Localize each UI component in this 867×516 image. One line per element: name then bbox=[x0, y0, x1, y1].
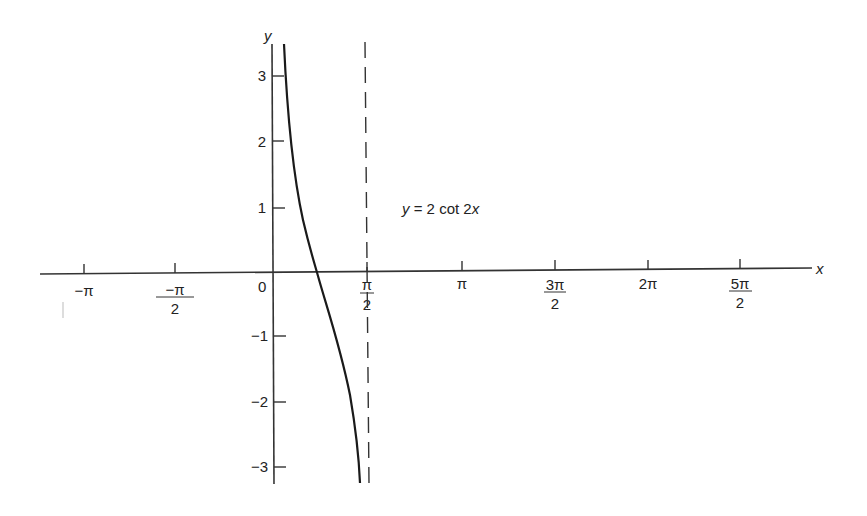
x-tick-label-den: 2 bbox=[551, 295, 559, 312]
origin-label: 0 bbox=[258, 278, 266, 295]
x-tick-label-num: 5π bbox=[731, 275, 750, 292]
svg-text:3: 3 bbox=[258, 67, 266, 84]
svg-text:−1: −1 bbox=[251, 327, 268, 344]
svg-text:−2: −2 bbox=[251, 393, 268, 410]
svg-text:1: 1 bbox=[258, 199, 266, 216]
y-tick-labels: 3 2 1 −1 −2 −3 bbox=[251, 67, 268, 475]
svg-text:−3: −3 bbox=[251, 458, 268, 475]
x-tick-label-num: 3π bbox=[546, 276, 565, 293]
x-tick-label: −π bbox=[74, 282, 93, 299]
x-tick-label-den: 2 bbox=[171, 300, 179, 317]
y-axis-label: y bbox=[263, 27, 273, 44]
x-tick-labels: −π −π 2 π 2 π 3π 2 2π 5π 2 bbox=[74, 275, 752, 317]
x-tick-label-num: −π bbox=[165, 281, 184, 298]
x-tick-label: π bbox=[457, 275, 467, 292]
x-axis bbox=[40, 268, 812, 274]
x-tick-label-den: 2 bbox=[736, 294, 744, 311]
equation-label: y = 2 cot 2x bbox=[401, 200, 480, 217]
cot-curve bbox=[284, 44, 360, 483]
x-axis-label: x bbox=[815, 260, 824, 277]
x-tick-label: 2π bbox=[639, 275, 658, 292]
y-axis bbox=[272, 44, 274, 484]
svg-text:2: 2 bbox=[258, 133, 266, 150]
cotangent-chart: x y 0 −π −π 2 π 2 π 3π 2 2π 5π 2 bbox=[0, 0, 867, 516]
